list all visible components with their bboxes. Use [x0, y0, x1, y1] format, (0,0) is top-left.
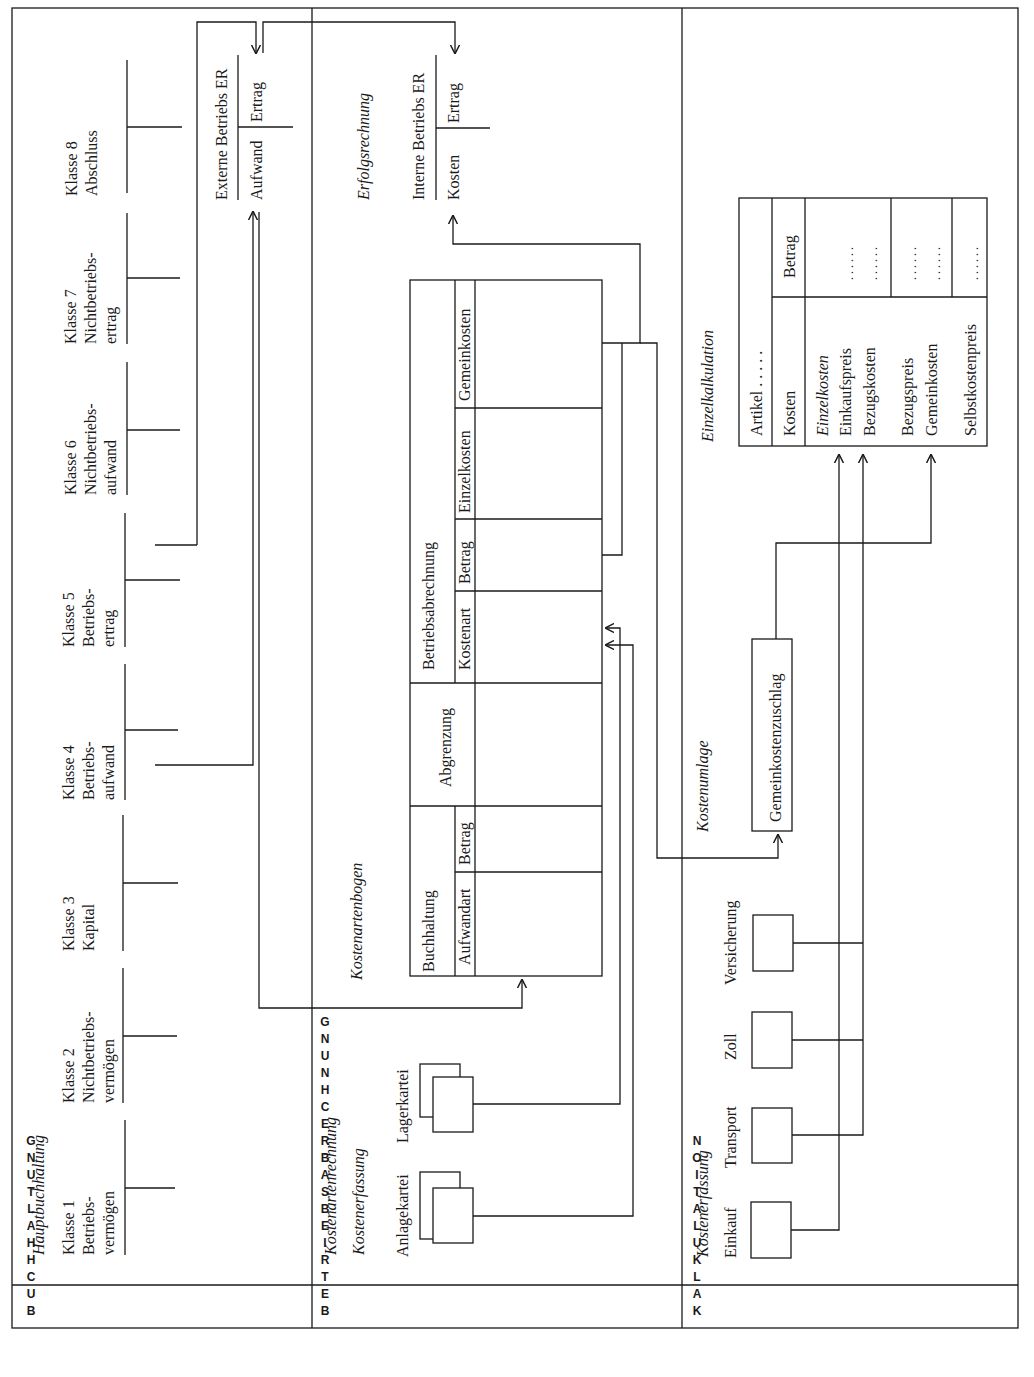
- source-zoll: Zoll: [722, 1033, 740, 1060]
- class-7-line3: ertrag: [102, 307, 120, 344]
- bezugskosten-row: Bezugskosten: [861, 347, 879, 436]
- einkaufspreis-row: Einkaufspreis: [837, 348, 855, 436]
- class-8-line2: Abschluss: [83, 130, 101, 196]
- class-3-line2: Kapital: [80, 904, 98, 951]
- class-3-line1: Klasse 3: [60, 896, 78, 951]
- class-1-line2: Betriebs-: [80, 1196, 98, 1255]
- kosten-header: Kosten: [781, 391, 799, 436]
- buchhaltung-betrag-col: Betrag: [456, 822, 474, 865]
- kostenumlage-label: Kostenumlage: [694, 740, 712, 832]
- class-5-line1: Klasse 5: [60, 592, 78, 647]
- interne-er-ertrag: Ertrag: [445, 83, 463, 123]
- externe-er-aufwand: Aufwand: [248, 140, 266, 200]
- class-2-line1: Klasse 2: [60, 1048, 78, 1103]
- externe-er-ertrag: Ertrag: [248, 82, 266, 122]
- betrag-header: Betrag: [781, 235, 799, 278]
- artikel-field: Artikel . . . . .: [748, 351, 766, 436]
- erfolgsrechnung-label: Erfolgsrechnung: [355, 93, 373, 200]
- kostenartenbogen-label: Kostenartenbogen: [348, 863, 366, 980]
- lagerkartei-label: Lagerkartei: [394, 1069, 412, 1143]
- aufwandart-col: Aufwandart: [456, 889, 474, 965]
- bezugskosten-amount: . . . . . .: [864, 247, 882, 280]
- class-2-line3: vermögen: [100, 1039, 118, 1103]
- class-5-line3: ertrag: [100, 610, 118, 647]
- kostenartenrechnung-title: Kostenartenrechnung: [322, 1117, 340, 1255]
- class-4-line2: Betriebs-: [80, 741, 98, 800]
- class-6-line1: Klasse 6: [62, 440, 80, 495]
- gemeinkosten-row: Gemeinkosten: [923, 344, 941, 436]
- class-1-line1: Klasse 1: [60, 1200, 78, 1255]
- source-versicherung: Versicherung: [722, 901, 740, 985]
- interne-er-kosten: Kosten: [445, 155, 463, 200]
- einzelkosten-row: Einzelkosten: [814, 355, 832, 436]
- betriebsabrechnung-header: Betriebsabrechnung: [420, 542, 438, 670]
- class-8-line1: Klasse 8: [63, 141, 81, 196]
- kostenerfassung-label: Kostenerfassung: [694, 1150, 712, 1257]
- buchhaltung-header: Buchhaltung: [420, 890, 438, 972]
- einzelkalkulation-label: Einzelkalkulation: [699, 330, 717, 442]
- anlagekartei-label: Anlagekartei: [394, 1174, 412, 1257]
- class-6-line3: aufwand: [102, 440, 120, 495]
- kostenerfassung-title: Kostenerfassung: [350, 1148, 368, 1255]
- kostenart-col: Kostenart: [456, 608, 474, 670]
- einzelkosten-col: Einzelkosten: [456, 430, 474, 513]
- abgrenzung-header: Abgrenzung: [437, 708, 455, 787]
- class-7-line2: Nichtbetriebs-: [82, 252, 100, 344]
- source-transport: Transport: [722, 1106, 740, 1168]
- externe-er-title: Externe Betriebs ER: [213, 68, 231, 200]
- class-7-line1: Klasse 7: [62, 289, 80, 344]
- class-1-line3: vermögen: [100, 1191, 118, 1255]
- betriebsabrechnung-betrag-col: Betrag: [456, 541, 474, 584]
- class-4-line3: aufwand: [100, 745, 118, 800]
- interne-er-title: Interne Betriebs ER: [410, 73, 428, 200]
- class-6-line2: Nichtbetriebs-: [82, 403, 100, 495]
- class-2-line2: Nichtbetriebs-: [80, 1011, 98, 1103]
- gemeinkostenzuschlag-box-label: Gemeinkostenzuschlag: [767, 674, 785, 822]
- einkaufspreis-amount: . . . . . .: [840, 247, 858, 280]
- source-einkauf: Einkauf: [722, 1207, 740, 1258]
- diagram-lines: [0, 0, 1034, 1377]
- bezugspreis-amount: . . . . . .: [903, 247, 921, 280]
- selbstkostenpreis-row: Selbstkostenpreis: [962, 324, 980, 436]
- class-5-line2: Betriebs-: [80, 588, 98, 647]
- hauptbuchhaltung-title: Hauptbuchhaltung: [30, 1135, 48, 1255]
- gemeinkosten-amount: . . . . . .: [927, 247, 945, 280]
- selbstkostenpreis-amount: . . . . . .: [965, 247, 983, 280]
- gemeinkosten-col: Gemeinkosten: [456, 309, 474, 401]
- class-4-line1: Klasse 4: [60, 745, 78, 800]
- bezugspreis-row: Bezugspreis: [899, 358, 917, 436]
